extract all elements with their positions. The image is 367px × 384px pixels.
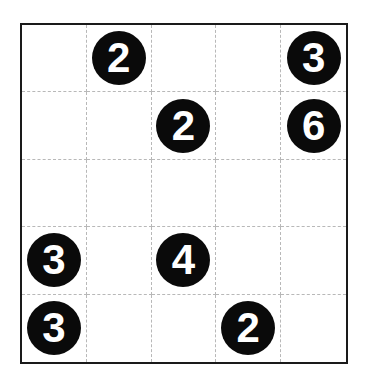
puzzle-board: 23263432: [20, 23, 348, 364]
grid-cell-r3-c1[interactable]: [87, 227, 152, 294]
grid-cell-r2-c1[interactable]: [87, 160, 152, 227]
number-clue: 3: [27, 233, 81, 287]
number-clue: 3: [27, 301, 81, 355]
number-clue: 2: [92, 31, 146, 85]
grid-cell-r1-c1[interactable]: [87, 92, 152, 159]
grid-cell-r4-c1[interactable]: [87, 295, 152, 362]
grid-cell-r0-c3[interactable]: [216, 25, 281, 92]
number-clue: 3: [287, 31, 341, 85]
grid-cell-r0-c0[interactable]: [22, 25, 87, 92]
grid-cell-r3-c3[interactable]: [216, 227, 281, 294]
grid-cell-r0-c4[interactable]: 3: [281, 25, 346, 92]
grid-cell-r3-c0[interactable]: 3: [22, 227, 87, 294]
grid-cell-r2-c4[interactable]: [281, 160, 346, 227]
grid-cell-r1-c3[interactable]: [216, 92, 281, 159]
grid-cell-r2-c0[interactable]: [22, 160, 87, 227]
grid-cell-r4-c0[interactable]: 3: [22, 295, 87, 362]
grid-cell-r4-c2[interactable]: [152, 295, 217, 362]
grid-cell-r3-c2[interactable]: 4: [152, 227, 217, 294]
grid-cell-r4-c4[interactable]: [281, 295, 346, 362]
grid-cell-r0-c2[interactable]: [152, 25, 217, 92]
grid-cell-r2-c2[interactable]: [152, 160, 217, 227]
number-clue: 2: [221, 301, 275, 355]
grid-cell-r1-c0[interactable]: [22, 92, 87, 159]
grid-cell-r1-c4[interactable]: 6: [281, 92, 346, 159]
grid-cell-r1-c2[interactable]: 2: [152, 92, 217, 159]
number-clue: 4: [156, 233, 210, 287]
number-clue: 2: [156, 99, 210, 153]
grid-cell-r2-c3[interactable]: [216, 160, 281, 227]
grid-cell-r3-c4[interactable]: [281, 227, 346, 294]
number-clue: 6: [287, 99, 341, 153]
grid-cell-r4-c3[interactable]: 2: [216, 295, 281, 362]
grid-cell-r0-c1[interactable]: 2: [87, 25, 152, 92]
